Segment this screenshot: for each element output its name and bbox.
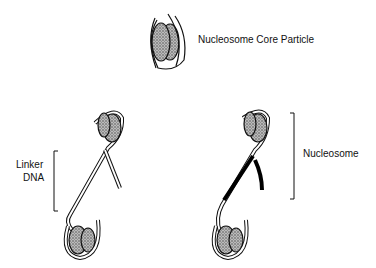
core-particle-label: Nucleosome Core Particle: [198, 34, 314, 46]
core-particle-icon: [151, 14, 185, 69]
linker-label-line2: DNA: [23, 172, 44, 184]
nucleosome-label: Nucleosome: [303, 148, 359, 160]
linker-bracket: [54, 151, 58, 211]
nucleosome-bracket: [290, 113, 294, 199]
nucleosome-icon: [214, 112, 268, 259]
linker-label-line1: Linker: [16, 159, 43, 171]
linker-dna-nucleosomes-icon: [66, 113, 122, 258]
diagram-canvas: [0, 0, 376, 268]
